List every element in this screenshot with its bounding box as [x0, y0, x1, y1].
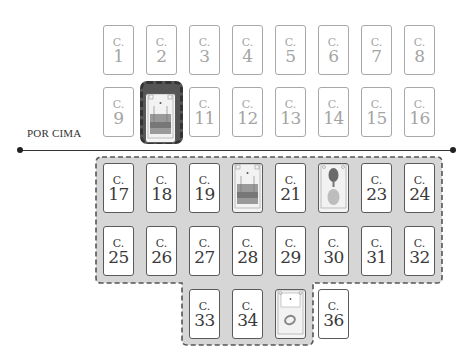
card-number: 26 [151, 249, 172, 266]
card-number: 9 [113, 110, 123, 127]
card-29: C.29 [275, 226, 306, 276]
card-number: 7 [371, 48, 381, 65]
card-6: C.6 [318, 25, 349, 75]
card-number: 29 [280, 249, 301, 266]
card-36: C.36 [318, 289, 349, 339]
card-spread-diagram: POR CIMA C.1C.2C.3C.4C.5C.6C.7C.8C.9C.11… [0, 0, 468, 361]
card-17: C.17 [103, 163, 134, 213]
tree-and-figure-illustration [319, 163, 348, 213]
card-number: 3 [199, 48, 209, 65]
card-12: C.12 [232, 87, 263, 137]
card-number: 19 [194, 186, 215, 203]
garden-scene-illustration [146, 93, 175, 143]
card-number: 11 [194, 110, 215, 127]
card-2: C.2 [146, 25, 177, 75]
card-35 [275, 289, 306, 339]
card-25: C.25 [103, 226, 134, 276]
divider-label: POR CIMA [27, 127, 81, 139]
card-26: C.26 [146, 226, 177, 276]
card-number: 17 [108, 186, 129, 203]
card-number: 6 [328, 48, 338, 65]
card-number: 13 [280, 110, 301, 127]
card-23: C.23 [361, 163, 392, 213]
card-number: 32 [409, 249, 430, 266]
card-number: 25 [108, 249, 129, 266]
card-number: 23 [366, 186, 387, 203]
card-3: C.3 [189, 25, 220, 75]
card-number: 1 [113, 48, 123, 65]
card-11: C.11 [189, 87, 220, 137]
card-number: 27 [194, 249, 215, 266]
card-22 [318, 163, 349, 213]
card-7: C.7 [361, 25, 392, 75]
card-18: C.18 [146, 163, 177, 213]
card-20 [232, 163, 263, 213]
card-27: C.27 [189, 226, 220, 276]
garden-scene-illustration [233, 163, 262, 213]
card-14: C.14 [318, 87, 349, 137]
card-number: 4 [242, 48, 252, 65]
divider-line [20, 150, 453, 151]
card-number: 14 [323, 110, 344, 127]
card-28: C.28 [232, 226, 263, 276]
card-number: 21 [280, 186, 301, 203]
card-number: 36 [323, 312, 344, 329]
card-number: 5 [285, 48, 295, 65]
card-19: C.19 [189, 163, 220, 213]
card-15: C.15 [361, 87, 392, 137]
card-number: 16 [409, 110, 430, 127]
card-30: C.30 [318, 226, 349, 276]
card-number: 33 [194, 312, 215, 329]
divider-end-dot [450, 147, 456, 153]
card-number: 12 [237, 110, 258, 127]
card-1: C.1 [103, 25, 134, 75]
card-number: 2 [156, 48, 166, 65]
card-21: C.21 [275, 163, 306, 213]
card-13: C.13 [275, 87, 306, 137]
card-9: C.9 [103, 87, 134, 137]
card-4: C.4 [232, 25, 263, 75]
card-number: 24 [409, 186, 430, 203]
card-number: 28 [237, 249, 258, 266]
card-31: C.31 [361, 226, 392, 276]
card-32: C.32 [404, 226, 435, 276]
card-16: C.16 [404, 87, 435, 137]
card-33: C.33 [189, 289, 220, 339]
card-number: 34 [237, 312, 258, 329]
card-number: 15 [366, 110, 387, 127]
card-5: C.5 [275, 25, 306, 75]
card-number: 31 [366, 249, 387, 266]
ring-card-illustration [276, 289, 305, 339]
card-number: 18 [151, 186, 172, 203]
card-24: C.24 [404, 163, 435, 213]
card-number: 8 [414, 48, 424, 65]
card-10 [145, 93, 176, 143]
card-34: C.34 [232, 289, 263, 339]
card-number: 30 [323, 249, 344, 266]
card-8: C.8 [404, 25, 435, 75]
divider-start-dot [17, 147, 23, 153]
